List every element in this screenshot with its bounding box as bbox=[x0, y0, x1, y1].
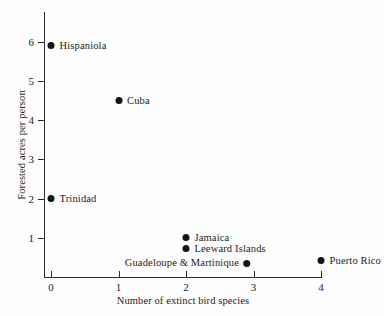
data-point: Leeward Islands bbox=[183, 243, 266, 255]
data-point-marker bbox=[48, 42, 55, 49]
data-point-label: Hispaniola bbox=[60, 40, 107, 52]
data-point-label: Guadeloupe & Martinique bbox=[125, 257, 239, 269]
x-tick-mark bbox=[254, 271, 255, 277]
y-tick-mark bbox=[38, 120, 44, 121]
data-point-marker bbox=[183, 245, 190, 252]
data-point: Cuba bbox=[115, 95, 150, 107]
x-tick-mark bbox=[51, 271, 52, 277]
scatter-plot: 123456 01234 HispaniolaCubaTrinidadJamai… bbox=[0, 0, 384, 316]
x-tick-label: 2 bbox=[183, 281, 189, 293]
data-point-label: Leeward Islands bbox=[195, 243, 266, 255]
y-tick-mark bbox=[38, 159, 44, 160]
x-axis-line bbox=[44, 277, 322, 278]
data-point: Puerto Rico bbox=[318, 255, 382, 267]
x-tick-label: 0 bbox=[48, 281, 54, 293]
y-tick-mark bbox=[38, 238, 44, 239]
data-point-marker bbox=[48, 195, 55, 202]
x-tick-label: 1 bbox=[116, 281, 122, 293]
data-point-marker bbox=[318, 257, 325, 264]
x-tick-mark bbox=[119, 271, 120, 277]
data-point: Guadeloupe & Martinique bbox=[125, 257, 254, 269]
x-tick-label: 4 bbox=[318, 281, 324, 293]
y-tick-mark bbox=[38, 81, 44, 82]
x-tick-label: 3 bbox=[251, 281, 257, 293]
x-tick-mark bbox=[186, 271, 187, 277]
data-point: Trinidad bbox=[48, 193, 97, 205]
data-point-label: Puerto Rico bbox=[330, 255, 382, 267]
x-axis-title: Number of extinct bird species bbox=[44, 294, 322, 308]
data-point-label: Trinidad bbox=[60, 193, 97, 205]
data-point-marker bbox=[183, 234, 190, 241]
data-point-marker bbox=[243, 260, 250, 267]
y-axis-line bbox=[44, 12, 45, 278]
y-axis-title: Forested acres per person bbox=[14, 12, 30, 278]
x-tick-mark bbox=[321, 271, 322, 277]
y-tick-mark bbox=[38, 42, 44, 43]
data-point: Hispaniola bbox=[48, 40, 107, 52]
y-tick-mark bbox=[38, 199, 44, 200]
data-point-marker bbox=[115, 97, 122, 104]
data-point-label: Cuba bbox=[127, 95, 150, 107]
